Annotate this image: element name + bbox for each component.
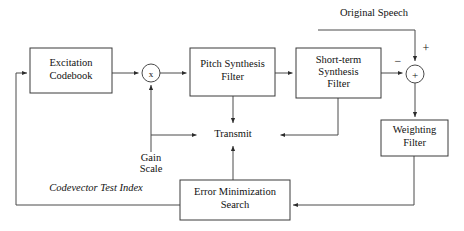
codevector-test-index-label: Codevector Test Index (49, 182, 143, 193)
block-pitch-synthesis-filter-label-line2: Filter (221, 71, 244, 82)
block-excitation-codebook[interactable]: Excitation Codebook (30, 48, 112, 93)
wire-weighting-filter-to-error-search (293, 156, 414, 205)
original-speech-label: Original Speech (340, 7, 409, 18)
gain-multiplier-node[interactable]: x (142, 64, 160, 82)
minus-sign-icon: − (395, 54, 402, 68)
block-weighting-filter-label-line2: Filter (403, 137, 426, 148)
block-error-minimization-search-label-line1: Error Minimization (194, 186, 277, 197)
multiply-operator-icon: x (149, 69, 154, 79)
block-diagram-canvas: Excitation Codebook Pitch Synthesis Filt… (0, 0, 464, 231)
block-error-minimization-search[interactable]: Error Minimization Search (180, 180, 290, 220)
celp-encoder-diagram: Excitation Codebook Pitch Synthesis Filt… (0, 0, 464, 231)
block-pitch-synthesis-filter-label-line1: Pitch Synthesis (200, 58, 264, 69)
block-pitch-synthesis-filter[interactable]: Pitch Synthesis Filter (190, 48, 275, 96)
block-short-term-synthesis-filter-label-line3: Filter (327, 78, 350, 89)
plus-sign-icon: + (423, 41, 430, 55)
gain-scale-label-line2: Scale (140, 163, 163, 174)
block-short-term-synthesis-filter[interactable]: Short-term Synthesis Filter (296, 48, 381, 98)
block-excitation-codebook-label-line2: Codebook (49, 70, 93, 81)
error-summer-node[interactable]: + (406, 65, 424, 83)
block-weighting-filter-label-line1: Weighting (393, 124, 437, 135)
wire-short-term-filter-to-transmit (281, 98, 339, 135)
block-short-term-synthesis-filter-label-line2: Synthesis (318, 66, 358, 77)
block-short-term-synthesis-filter-label-line1: Short-term (316, 54, 362, 65)
gain-scale-label-line1: Gain (141, 152, 162, 163)
block-excitation-codebook-label-line1: Excitation (49, 57, 93, 68)
block-error-minimization-search-label-line2: Search (221, 199, 250, 210)
block-weighting-filter[interactable]: Weighting Filter (381, 120, 448, 156)
plus-operator-icon: + (412, 69, 418, 81)
transmit-label: Transmit (214, 128, 252, 139)
